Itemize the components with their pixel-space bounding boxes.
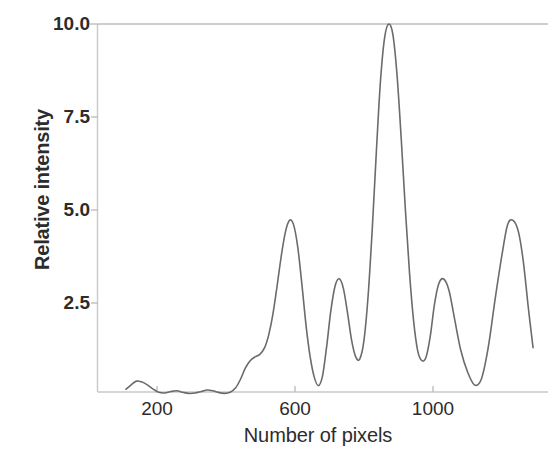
axis-spines <box>98 24 549 392</box>
intensity-curve <box>126 24 533 393</box>
plot-area <box>0 0 555 468</box>
chart-figure: Relative intensity 10.0 7.5 5.0 2.5 200 … <box>0 0 555 468</box>
axis-ticks <box>90 24 433 392</box>
